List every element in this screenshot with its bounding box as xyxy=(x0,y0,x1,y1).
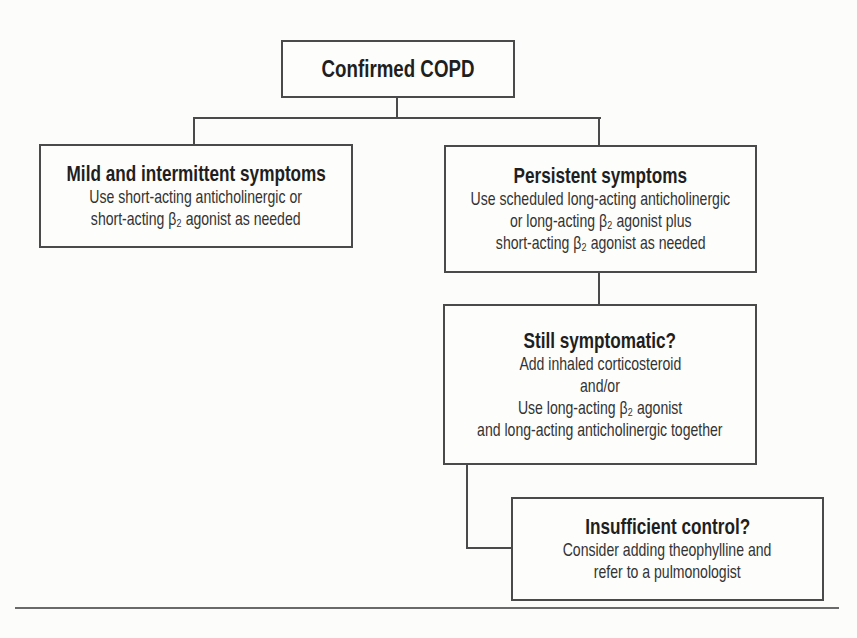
node-text-line: Add inhaled corticosteroid xyxy=(519,353,681,375)
node-text-line: short-acting β₂ agonist as needed xyxy=(496,232,706,254)
connector-persistent-to-still xyxy=(598,272,600,305)
bottom-divider xyxy=(15,607,839,609)
node-confirmed-copd: Confirmed COPD xyxy=(281,40,515,98)
connector-to-mild xyxy=(193,117,195,145)
node-mild-intermittent: Mild and intermittent symptoms Use short… xyxy=(39,144,353,248)
node-insufficient-control: Insufficient control? Consider adding th… xyxy=(511,497,824,601)
connector-to-insufficient xyxy=(466,547,512,549)
node-text-line: and long-acting anticholinergic together xyxy=(477,419,722,441)
node-title: Insufficient control? xyxy=(585,515,750,539)
connector-still-down xyxy=(466,463,468,549)
node-title: Confirmed COPD xyxy=(322,56,475,82)
node-text-line: refer to a pulmonologist xyxy=(594,561,741,583)
node-text-line: and/or xyxy=(580,375,620,397)
node-persistent-symptoms: Persistent symptoms Use scheduled long-a… xyxy=(444,145,757,273)
node-title: Mild and intermittent symptoms xyxy=(66,162,325,186)
connector-branch-horizontal xyxy=(193,117,601,119)
connector-to-persistent xyxy=(598,117,600,146)
node-text-line: Use scheduled long-acting anticholinergi… xyxy=(471,188,730,210)
node-text-line: Consider adding theophylline and xyxy=(563,539,772,561)
node-title: Still symptomatic? xyxy=(524,329,677,353)
node-text-line: short-acting β₂ agonist as needed xyxy=(91,208,301,230)
node-title: Persistent symptoms xyxy=(514,164,688,188)
node-text-line: Use long-acting β₂ agonist xyxy=(518,397,682,419)
node-text-line: or long-acting β₂ agonist plus xyxy=(510,210,692,232)
node-text-line: Use short-acting anticholinergic or xyxy=(90,186,303,208)
node-still-symptomatic: Still symptomatic? Add inhaled corticost… xyxy=(443,304,757,465)
connector-root-down xyxy=(396,97,398,119)
